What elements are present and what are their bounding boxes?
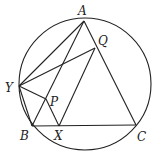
- segment-YQ: [19, 48, 95, 86]
- point-labels: A Q Y P B X C: [5, 4, 146, 144]
- segment-YB: [19, 86, 32, 126]
- label-X: X: [53, 129, 63, 143]
- label-C: C: [137, 130, 146, 144]
- label-Q: Q: [98, 34, 108, 48]
- segment-YA: [19, 21, 84, 86]
- label-B: B: [19, 129, 29, 143]
- label-Y: Y: [5, 81, 14, 95]
- segment-AB: [32, 21, 84, 126]
- circumcircle: [19, 18, 151, 150]
- geometry-diagram: A Q Y P B X C: [0, 0, 157, 154]
- segment-BC: [32, 125, 136, 126]
- label-P: P: [49, 95, 59, 109]
- label-A: A: [77, 4, 87, 18]
- segments: [19, 21, 136, 126]
- segment-AC: [84, 21, 136, 125]
